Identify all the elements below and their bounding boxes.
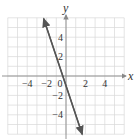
axes bbox=[2, 15, 126, 139]
svg-text:−2: −2 bbox=[41, 78, 52, 89]
svg-text:2: 2 bbox=[83, 78, 88, 89]
line-graph: −4−202442−2−4 x y bbox=[0, 0, 140, 140]
svg-text:4: 4 bbox=[58, 32, 63, 43]
svg-text:4: 4 bbox=[102, 78, 107, 89]
x-axis-label: x bbox=[127, 69, 134, 83]
svg-text:0: 0 bbox=[58, 78, 63, 89]
y-axis-label: y bbox=[62, 1, 69, 15]
svg-text:−2: −2 bbox=[52, 90, 63, 101]
svg-text:−4: −4 bbox=[52, 109, 63, 120]
svg-text:−4: −4 bbox=[22, 78, 33, 89]
svg-text:2: 2 bbox=[58, 51, 63, 62]
